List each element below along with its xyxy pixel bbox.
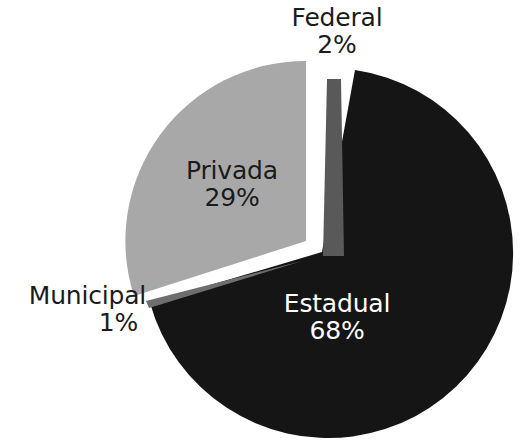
slice-label-municipal-name: Municipal: [0, 282, 146, 309]
slice-label-federal-name: Federal: [252, 4, 422, 31]
slice-label-estadual-name: Estadual: [262, 290, 412, 317]
pie-chart: Federal 2% Privada 29% Municipal 1% Esta…: [0, 0, 521, 444]
slice-label-privada-name: Privada: [152, 157, 312, 184]
slice-label-municipal: Municipal 1%: [0, 282, 146, 336]
slice-label-municipal-value: 1%: [0, 309, 146, 336]
slice-label-federal: Federal 2%: [252, 4, 422, 58]
slice-label-estadual: Estadual 68%: [262, 290, 412, 344]
pie-slice-federal[interactable]: [323, 79, 344, 256]
slice-label-privada-value: 29%: [152, 184, 312, 211]
slice-label-estadual-value: 68%: [262, 317, 412, 344]
slice-label-privada: Privada 29%: [152, 157, 312, 211]
slice-label-federal-value: 2%: [252, 31, 422, 58]
pie-chart-canvas: [0, 0, 521, 444]
